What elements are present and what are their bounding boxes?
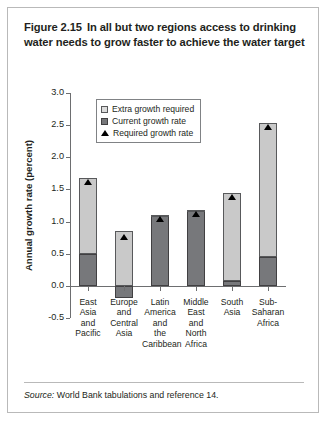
required-growth-marker xyxy=(228,194,236,200)
required-growth-marker xyxy=(84,179,92,185)
y-tick-label: 1.0 xyxy=(51,217,64,226)
y-tick-label: 2.5 xyxy=(51,121,64,130)
source-label: Source: xyxy=(24,390,54,400)
y-tick-label: 0.0 xyxy=(51,281,64,290)
x-category-label: EastAsiaandPacific xyxy=(70,297,106,339)
x-tick xyxy=(196,286,197,291)
y-axis-line xyxy=(70,93,71,318)
x-category-label: Sub-SaharanAfrica xyxy=(250,297,286,328)
bar-segment-current[interactable] xyxy=(151,216,169,285)
y-tick xyxy=(66,222,70,223)
x-category-label: LatinAmericaandtheCaribbean xyxy=(142,297,178,349)
y-tick xyxy=(66,125,70,126)
x-tick xyxy=(160,286,161,291)
legend-label-current: Current growth rate xyxy=(112,117,186,126)
x-tick xyxy=(88,286,89,291)
required-growth-marker xyxy=(192,211,200,217)
bar-segment-current[interactable] xyxy=(79,254,97,286)
y-tick xyxy=(66,189,70,190)
legend-label-extra: Extra growth required xyxy=(112,105,194,114)
bar-segment-current[interactable] xyxy=(259,257,277,286)
bar-segment-current[interactable] xyxy=(187,211,205,286)
legend-item-current: Current growth rate xyxy=(101,115,194,127)
y-tick xyxy=(66,254,70,255)
square-swatch-light-icon xyxy=(101,106,108,113)
figure-card: Figure 2.15In all but two regions access… xyxy=(7,7,319,413)
x-category-label: EuropeandCentralAsia xyxy=(106,297,142,339)
source-text: World Bank tabulations and reference 14. xyxy=(57,390,219,400)
source-note: Source: World Bank tabulations and refer… xyxy=(24,389,306,401)
y-tick xyxy=(66,286,70,287)
zero-baseline xyxy=(70,286,286,287)
required-growth-marker xyxy=(120,234,128,240)
chart-plot-area: Annual growth rate (percent) 3.02.52.01.… xyxy=(8,8,320,338)
bar-segment-extra[interactable] xyxy=(79,178,97,254)
bar-segment-extra[interactable] xyxy=(223,193,241,282)
y-tick-label: 3.0 xyxy=(51,88,64,97)
x-tick xyxy=(124,286,125,291)
square-swatch-dark-icon xyxy=(101,118,108,125)
y-tick xyxy=(66,93,70,94)
y-tick-label: 1.5 xyxy=(51,185,64,194)
y-tick xyxy=(66,157,70,158)
y-tick-label: 0.5 xyxy=(51,249,64,258)
bar-group[interactable] xyxy=(79,93,97,318)
legend-item-extra: Extra growth required xyxy=(101,103,194,115)
legend-item-required: Required growth rate xyxy=(101,127,194,139)
legend-label-required: Required growth rate xyxy=(113,129,193,138)
bar-group[interactable] xyxy=(223,93,241,318)
y-axis-title: Annual growth rate (percent) xyxy=(22,93,36,318)
required-growth-marker xyxy=(264,124,272,130)
x-category-label: MiddleEastand NorthAfrica xyxy=(178,297,214,349)
x-category-label: SouthAsia xyxy=(214,297,250,318)
triangle-marker-icon xyxy=(101,130,109,136)
chart-legend: Extra growth required Current growth rat… xyxy=(96,99,201,143)
y-tick-label: -0.5 xyxy=(48,313,64,322)
bar-group[interactable] xyxy=(259,93,277,318)
source-divider xyxy=(24,382,304,383)
required-growth-marker xyxy=(156,216,164,222)
bar-segment-extra[interactable] xyxy=(259,123,277,257)
x-tick xyxy=(268,286,269,291)
x-tick xyxy=(232,286,233,291)
y-tick-label: 2.0 xyxy=(51,153,64,162)
